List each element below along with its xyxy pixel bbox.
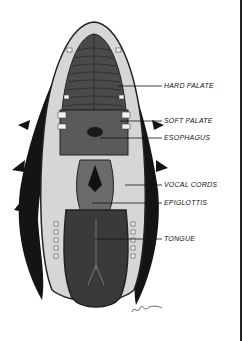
anatomy-figure: HARD PALATE SOFT PALATE ESOPHAGUS VOCAL …: [0, 0, 243, 341]
label-hard-palate: HARD PALATE: [164, 82, 214, 90]
label-tongue: TONGUE: [164, 235, 195, 243]
right-border-line: [240, 0, 242, 341]
label-soft-palate: SOFT PALATE: [164, 117, 213, 125]
label-vocal-cords: VOCAL CORDS: [164, 181, 217, 189]
artist-signature: [132, 306, 162, 312]
label-epiglottis: EPIGLOTTIS: [164, 199, 207, 207]
label-esophagus: ESOPHAGUS: [164, 134, 210, 142]
mouth-illustration: [0, 0, 243, 341]
